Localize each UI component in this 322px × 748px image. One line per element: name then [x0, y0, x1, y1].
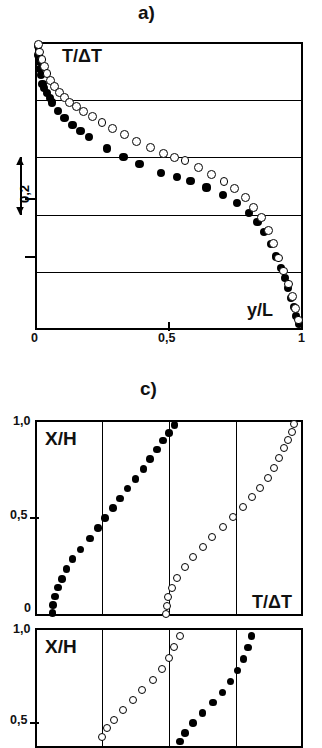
data-point-filled-circles [85, 133, 93, 141]
plot-a-y-axis-label: T/ΔT [62, 46, 102, 67]
data-point-open-circles [248, 493, 256, 501]
data-point-open-circles [288, 428, 296, 436]
data-point-open-circles [239, 503, 247, 511]
data-point-filled-circles [165, 429, 173, 437]
data-point-filled-circles [199, 709, 207, 717]
plot-a-gridline-4 [35, 272, 303, 273]
data-point-filled-circles [86, 535, 94, 543]
data-point-open-circles [110, 716, 118, 724]
data-point-filled-circles [49, 601, 57, 609]
data-point-filled-circles [146, 455, 154, 463]
plot-a-scalebar-tick-top [25, 198, 36, 200]
data-point-open-circles [170, 153, 179, 162]
data-point-open-circles [270, 464, 278, 472]
data-point-open-circles [256, 484, 264, 492]
data-point-filled-circles [240, 655, 248, 663]
data-point-filled-circles [181, 729, 189, 737]
data-point-filled-circles [116, 495, 124, 503]
data-point-filled-circles [76, 127, 84, 135]
data-point-filled-circles [186, 177, 194, 185]
plot-c-ytick-mid [30, 517, 39, 519]
data-point-filled-circles [63, 565, 71, 573]
plot-a-xticklabel-0: 0 [31, 331, 38, 345]
data-point-open-circles [257, 213, 266, 222]
data-point-open-circles [219, 523, 227, 531]
data-point-open-circles [129, 696, 137, 704]
plot-a-scale-bar-label: 0,2 [17, 185, 32, 203]
data-point-filled-circles [153, 446, 161, 454]
data-point-filled-circles [132, 475, 140, 483]
data-point-filled-circles [68, 121, 76, 129]
data-point-open-circles [173, 574, 181, 582]
panel-c-caption: c) [140, 378, 157, 400]
data-point-open-circles [264, 474, 272, 482]
plot-a-xticklabel-2: 1 [298, 331, 305, 345]
data-point-open-circles [294, 316, 303, 325]
plot-a-scalebar-tick-bottom [25, 256, 36, 258]
data-point-open-circles [162, 610, 170, 618]
panel-a-caption: a) [138, 2, 155, 24]
data-point-filled-circles [119, 153, 127, 161]
data-point-filled-circles [171, 421, 179, 429]
data-point-filled-circles [219, 191, 227, 199]
data-point-filled-circles [48, 98, 56, 106]
plot-panel-a [35, 42, 303, 330]
data-point-open-circles [176, 632, 184, 640]
data-point-open-circles [163, 602, 171, 610]
data-point-open-circles [108, 124, 117, 133]
data-point-filled-circles [54, 584, 62, 592]
data-point-open-circles [146, 143, 155, 152]
data-point-filled-circles [60, 114, 68, 122]
data-point-filled-circles [94, 524, 102, 532]
data-point-filled-circles [51, 593, 59, 601]
plot-c-y-axis-label: X/H [45, 428, 77, 450]
data-point-filled-circles [176, 738, 184, 746]
data-point-open-circles [208, 533, 216, 541]
plot-d-ytick-mid [30, 722, 39, 724]
data-point-filled-circles [202, 183, 210, 191]
data-point-open-circles [181, 563, 189, 571]
data-point-filled-circles [140, 465, 148, 473]
data-point-open-circles [264, 226, 273, 235]
plot-d-yticklabel-top: 1,0 [13, 622, 30, 636]
data-point-open-circles [132, 137, 141, 146]
plot-c-x-axis-label: T/ΔT [252, 592, 292, 613]
plot-c-yticklabel-mid: 0,5 [10, 508, 27, 522]
data-point-open-circles [168, 584, 176, 592]
plot-d-y-axis-label: X/H [45, 636, 77, 658]
data-point-filled-circles [101, 514, 109, 522]
data-point-open-circles [249, 203, 258, 212]
plot-d-gridline-3 [236, 628, 237, 748]
data-point-open-circles [79, 107, 88, 116]
data-point-filled-circles [58, 575, 66, 583]
data-point-filled-circles [189, 719, 197, 727]
plot-c-yticklabel-top: 1,0 [13, 414, 30, 428]
plot-a-xtick-mid [168, 322, 170, 331]
plot-a-xticklabel-1: 0,5 [158, 331, 175, 345]
data-point-open-circles [241, 193, 250, 202]
plot-d-yticklabel-mid: 0,5 [10, 713, 27, 727]
data-point-open-circles [269, 239, 278, 248]
plot-c-yticklabel-bottom: 0 [24, 601, 31, 615]
data-point-filled-circles [49, 609, 57, 617]
data-point-open-circles [284, 280, 293, 289]
data-point-open-circles [291, 304, 300, 313]
plot-a-scale-bar: 0,2 [15, 157, 35, 215]
data-point-open-circles [194, 163, 203, 172]
data-point-open-circles [288, 292, 297, 301]
data-point-open-circles [199, 543, 207, 551]
plot-a-gridline-1 [35, 100, 303, 101]
data-point-open-circles [284, 436, 292, 444]
plot-a-x-axis-label: y/L [247, 300, 273, 321]
data-point-filled-circles [109, 504, 117, 512]
plot-a-frame [35, 42, 303, 330]
